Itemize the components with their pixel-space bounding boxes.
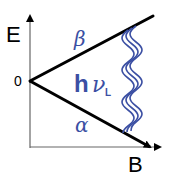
beta-label: β (73, 27, 86, 51)
transition-wave-icon (122, 26, 142, 133)
transition-label-subscript: L (105, 87, 111, 98)
zeeman-diagram: E B 0 β α h ν L (0, 0, 171, 179)
x-axis-label: B (128, 152, 143, 177)
transition-label-nu: ν (92, 72, 105, 97)
origin-label: 0 (14, 73, 22, 89)
transition-label-h: h (74, 70, 89, 97)
y-axis-label: E (6, 22, 21, 47)
alpha-label: α (75, 113, 89, 137)
